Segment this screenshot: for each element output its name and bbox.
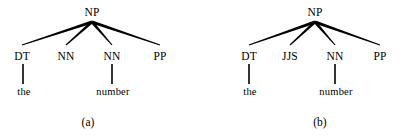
- tree-edges: [201, 0, 402, 139]
- node-label-nn: NN: [57, 50, 74, 62]
- node-label-root: NP: [307, 6, 322, 18]
- subfigure-caption-a: (a): [82, 116, 95, 129]
- syntax-tree-figure: NPDTtheNNNNnumberPP(a)NPDTtheJJSNNnumber…: [0, 0, 402, 139]
- terminal-word-the: the: [243, 86, 256, 98]
- node-label-pp: PP: [153, 50, 166, 62]
- terminal-word-number: number: [319, 86, 352, 98]
- parse-tree-b: NPDTtheJJSNNnumberPP: [201, 0, 402, 139]
- node-label-dt: DT: [241, 50, 257, 62]
- node-label-pp: PP: [373, 50, 386, 62]
- subfigure-caption-b: (b): [313, 116, 326, 129]
- tree-edges: [0, 0, 201, 139]
- terminal-word-number: number: [96, 86, 129, 98]
- parse-tree-a: NPDTtheNNNNnumberPP: [0, 0, 201, 139]
- node-label-dt: DT: [14, 50, 30, 62]
- node-label-nn: NN: [103, 50, 120, 62]
- node-label-jjs: JJS: [282, 50, 298, 62]
- terminal-word-the: the: [17, 86, 30, 98]
- node-label-nn: NN: [326, 50, 343, 62]
- node-label-root: NP: [84, 6, 99, 18]
